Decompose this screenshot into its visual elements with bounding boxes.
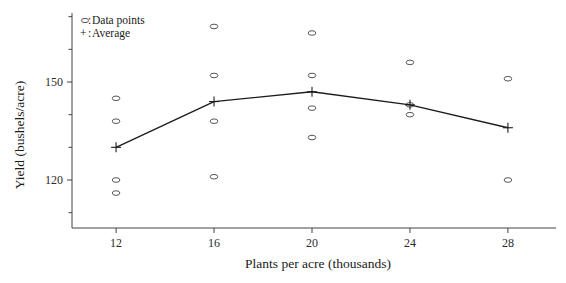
chart-figure: 120150 1216202428 Yield (bushels/acre) P…: [0, 0, 566, 283]
data-point-marker: [112, 96, 120, 101]
average-line-group: [116, 92, 508, 148]
data-point-marker: [308, 73, 316, 78]
legend-label-average: Average: [92, 27, 130, 40]
x-axis-ticks: 1216202428: [110, 228, 514, 250]
data-point-marker: [210, 24, 218, 29]
data-point-marker: [308, 135, 316, 140]
x-tick-label: 28: [502, 236, 514, 250]
data-point-marker: [210, 73, 218, 78]
y-tick-label: 120: [45, 173, 63, 187]
data-point-marker: [112, 178, 120, 183]
average-markers-group: [111, 87, 513, 153]
data-point-marker: [406, 60, 414, 65]
legend-separator-2: :: [88, 27, 91, 39]
data-point-marker: [210, 119, 218, 124]
data-point-marker: [210, 174, 218, 179]
data-point-marker: [504, 76, 512, 81]
axes: [72, 13, 556, 228]
legend-plus-icon: +: [80, 27, 87, 39]
y-axis-title: Yield (bushels/acre): [12, 81, 27, 189]
y-axis-ticks: 120150: [45, 17, 72, 213]
scatter-plot-canvas: 120150 1216202428 Yield (bushels/acre) P…: [0, 0, 566, 283]
data-point-marker: [504, 178, 512, 183]
legend-separator-1: :: [88, 14, 91, 26]
data-point-marker: [112, 191, 120, 196]
average-line: [116, 92, 508, 148]
y-tick-label: 150: [45, 75, 63, 89]
legend: Data points + Average : :: [80, 14, 145, 40]
data-points-group: [112, 24, 511, 195]
legend-label-data-points: Data points: [92, 14, 145, 27]
data-point-marker: [308, 31, 316, 36]
data-point-marker: [112, 119, 120, 124]
x-axis-title: Plants per acre (thousands): [245, 256, 391, 271]
x-tick-label: 24: [404, 236, 416, 250]
x-tick-label: 16: [208, 236, 220, 250]
data-point-marker: [308, 106, 316, 111]
data-point-marker: [406, 112, 414, 117]
x-tick-label: 20: [306, 236, 318, 250]
x-tick-label: 12: [110, 236, 122, 250]
